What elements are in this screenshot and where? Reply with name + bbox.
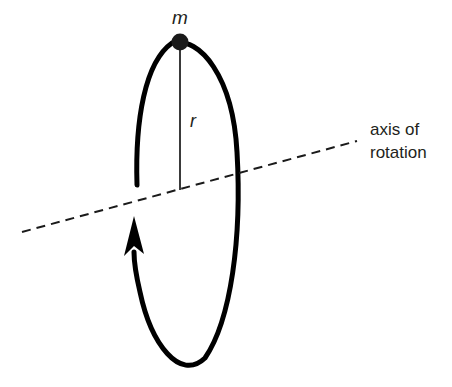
radius-label: r xyxy=(190,111,197,131)
mass-label: m xyxy=(172,7,188,28)
physics-diagram-canvas: m r axis of rotation xyxy=(0,0,452,387)
orbit-path-group xyxy=(134,42,238,365)
axis-of-rotation-dashed-line xyxy=(22,141,357,232)
mass-dot xyxy=(172,34,189,51)
axis-of-rotation-label-line2: rotation xyxy=(370,143,427,162)
orbit-ellipse-arc xyxy=(134,42,238,365)
axis-of-rotation-label-line1: axis of xyxy=(370,120,419,139)
rotation-diagram-svg: m r axis of rotation xyxy=(0,0,452,387)
